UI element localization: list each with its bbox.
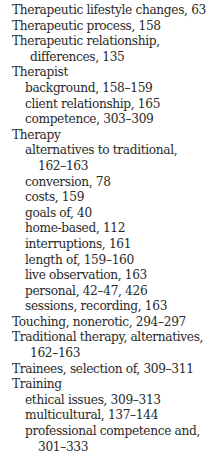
index-entry: Therapy (0, 128, 191, 144)
index-subentry: ethical issues, 309–313 (0, 393, 191, 409)
index-entry: Training (0, 377, 191, 393)
index-subentry: goals of, 40 (0, 206, 191, 222)
index-entry: Therapeutic process, 158 (0, 19, 191, 35)
index-entry: Therapist (0, 65, 191, 81)
index-subentry-continuation: 301–333 (0, 440, 191, 455)
index-subentry: personal, 42–47, 426 (0, 284, 191, 300)
index-subentry: costs, 159 (0, 190, 191, 206)
index-subentry: multicultural, 137–144 (0, 408, 191, 424)
index-entry: Trainees, selection of, 309–311 (0, 362, 191, 378)
index-entry: Traditional therapy, alternatives, (0, 330, 191, 346)
index-subentry: sessions, recording, 163 (0, 299, 191, 315)
index-entry-continuation: 162–163 (0, 346, 191, 362)
index-subentry: length of, 159–160 (0, 253, 191, 269)
book-index-column: Therapeutic lifestyle changes, 63 Therap… (0, 3, 191, 455)
index-subentry: alternatives to traditional, (0, 143, 191, 159)
index-entry: Therapeutic relationship, (0, 34, 191, 50)
index-entry: Therapeutic lifestyle changes, 63 (0, 3, 191, 19)
index-entry-continuation: differences, 135 (0, 50, 191, 66)
index-subentry: background, 158–159 (0, 81, 191, 97)
index-subentry: client relationship, 165 (0, 97, 191, 113)
index-subentry: conversion, 78 (0, 175, 191, 191)
index-subentry: competence, 303–309 (0, 112, 191, 128)
index-subentry-continuation: 162–163 (0, 159, 191, 175)
index-subentry: professional competence and, (0, 424, 191, 440)
index-subentry: live observation, 163 (0, 268, 191, 284)
index-entry: Touching, nonerotic, 294–297 (0, 315, 191, 331)
index-subentry: home-based, 112 (0, 221, 191, 237)
index-subentry: interruptions, 161 (0, 237, 191, 253)
